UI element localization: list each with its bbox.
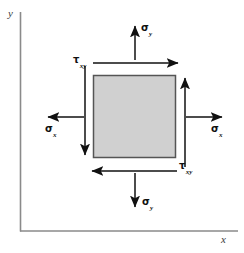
sigma-glyph: σ [142,196,150,207]
sigma-x-left-label: σx [45,124,56,137]
sigma-y-bottom-label: σy [142,197,153,210]
tau-glyph: τ [179,160,185,171]
sigma-x-right-subscript: x [219,131,223,139]
sigma-glyph: σ [141,22,149,33]
tau-xy-top-subscript: xy [80,62,87,70]
tau-glyph: τ [73,54,79,65]
figure-canvas [0,0,244,253]
sigma-x-left-subscript: x [53,131,57,139]
sigma-glyph: σ [45,123,53,134]
tau-xy-top-label: τxy [73,55,86,68]
sigma-x-right-label: σx [211,124,222,137]
tau-xy-bottom-label: τxy [179,161,192,174]
sigma-y-top-subscript: y [149,30,152,38]
x-axis-label: x [221,234,226,245]
sigma-glyph: σ [211,123,219,134]
sigma-y-bottom-subscript: y [150,204,153,212]
stress-element-figure: y x σy σy σx σx τxy τxy [0,0,244,253]
stress-element-square [94,76,176,158]
sigma-y-top-label: σy [141,23,152,36]
y-axis-label: y [8,8,13,19]
tau-xy-bottom-subscript: xy [186,168,193,176]
